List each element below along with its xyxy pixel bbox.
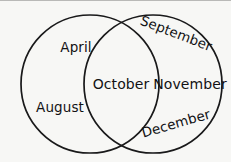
venn-label-august: August	[27, 101, 93, 115]
venn-diagram-figure: April August October September November …	[0, 0, 231, 162]
venn-label-april: April	[48, 41, 104, 55]
venn-label-november: November	[152, 77, 228, 91]
venn-label-october: October	[88, 77, 154, 91]
